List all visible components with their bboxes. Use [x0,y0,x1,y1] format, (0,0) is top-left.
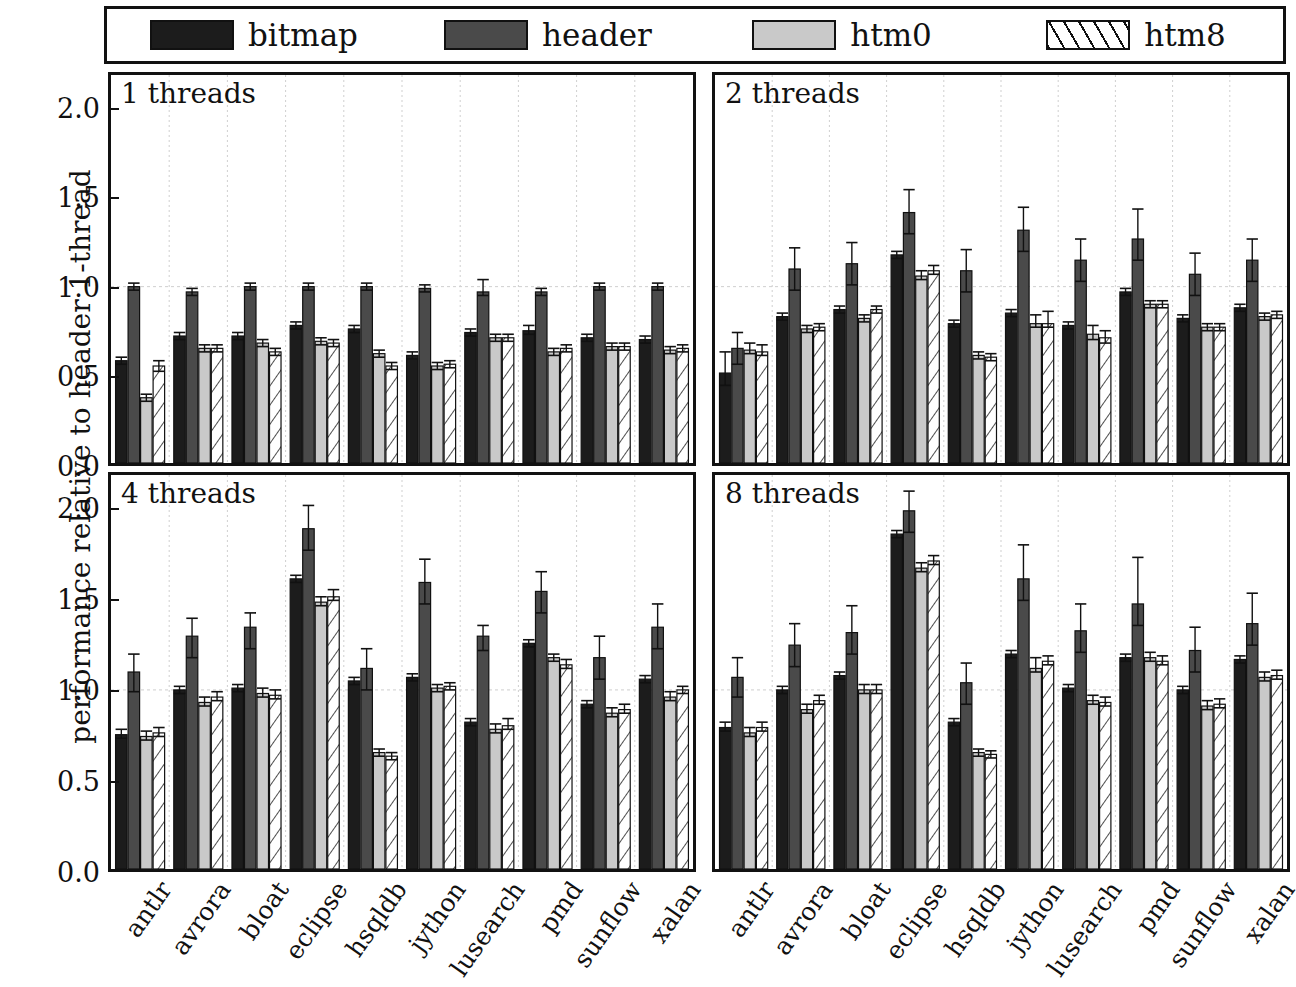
bar-htm8-eclipse [328,597,340,869]
figure-root: bitmap header htm0 htm8 performance rela… [0,0,1296,987]
bar-header-antlr [732,348,743,463]
bar-header-lusearch [1075,631,1086,869]
x-tick-label-avrora: avrora [165,876,236,961]
legend-label-htm8: htm8 [1144,20,1226,51]
bar-header-sunflow [1189,651,1200,869]
legend-label-header: header [542,20,652,51]
bar-header-sunflow [594,658,606,869]
legend-label-htm0: htm0 [850,20,932,51]
bar-bitmap-avrora [174,336,186,463]
bar-htm8-eclipse [928,271,939,463]
bar-header-sunflow [594,287,606,463]
bar-bitmap-jython [1006,654,1017,869]
bar-htm8-pmd [1157,661,1168,869]
bar-htm0-eclipse [916,568,927,869]
bar-htm8-avrora [814,701,825,869]
panel-title: 4 threads [121,479,256,510]
bar-htm8-bloat [270,352,282,463]
bar-bitmap-xalan [1234,659,1245,869]
bar-htm0-jython [432,688,444,869]
bar-htm0-lusearch [1087,701,1098,869]
y-tick-mark [108,599,119,601]
bar-bitmap-xalan [1234,308,1245,463]
bar-htm0-eclipse [315,341,327,463]
y-tick-mark [108,287,119,289]
x-axis-labels-right: antlravrorabloateclipsehsqldbjythonlusea… [712,874,1290,984]
y-tick-mark [108,376,119,378]
legend-item: htm8 [989,20,1283,51]
bar-htm8-pmd [1157,304,1168,463]
bar-htm0-avrora [801,329,812,463]
bar-header-jython [1018,579,1029,869]
bar-htm0-jython [432,366,444,463]
panel-title: 8 threads [725,479,860,510]
y-tick-label: 0.5 [38,361,100,392]
bar-htm8-jython [1042,324,1053,463]
x-tick-label-xalan: xalan [1238,876,1296,948]
bar-htm0-pmd [548,352,560,463]
bar-htm8-avrora [814,327,825,463]
bar-htm8-antlr [153,733,165,869]
bar-htm8-bloat [871,310,882,463]
panel-title: 1 threads [121,79,256,110]
y-tick-label: 1.0 [38,271,100,302]
bar-htm8-lusearch [1100,702,1111,869]
bar-header-xalan [1247,260,1258,463]
bar-bitmap-antlr [720,728,731,869]
bar-header-avrora [186,292,198,463]
bar-htm0-hsqldb [973,355,984,463]
y-axis-ticks-bottom: 0.00.51.01.52.0 [36,472,100,872]
x-tick-label-antlr: antlr [722,876,781,943]
bar-htm8-sunflow [619,347,631,463]
bar-bitmap-jython [407,677,419,869]
bar-bitmap-xalan [639,340,651,463]
bar-header-hsqldb [361,287,373,463]
bar-bitmap-jython [407,355,419,463]
bar-header-eclipse [303,529,315,869]
plot-area-1-threads [111,75,693,463]
bar-htm8-lusearch [1100,338,1111,463]
bar-bitmap-avrora [777,317,788,463]
bar-header-bloat [244,287,256,463]
bar-htm0-sunflow [1202,706,1213,869]
bar-bitmap-hsqldb [948,324,959,463]
bar-header-pmd [535,292,547,463]
panel-2-threads: 2 threads [712,72,1290,466]
legend-swatch-htm8 [1046,20,1130,50]
bar-bitmap-antlr [720,373,731,463]
bar-bitmap-eclipse [891,255,902,463]
bar-htm0-antlr [141,736,153,869]
bar-header-sunflow [1189,274,1200,463]
bar-header-hsqldb [961,683,972,869]
bar-htm0-lusearch [490,338,502,463]
bar-header-antlr [732,677,743,869]
bar-bitmap-avrora [174,690,186,869]
x-tick-label-pmd: pmd [533,876,589,938]
bar-htm8-xalan [1271,315,1282,463]
y-tick-mark [108,781,119,783]
bar-htm8-hsqldb [985,754,996,869]
bar-htm8-sunflow [1214,327,1225,463]
bar-htm8-hsqldb [386,756,398,869]
bar-htm8-bloat [270,695,282,869]
bar-htm8-pmd [561,348,573,463]
bar-bitmap-lusearch [465,332,477,463]
bar-header-avrora [789,645,800,869]
y-tick-label: 0.5 [38,766,100,797]
bar-header-avrora [789,269,800,463]
x-axis-labels-left: antlravrorabloateclipsehsqldbjythonlusea… [108,874,696,984]
bar-bitmap-lusearch [1063,325,1074,463]
bar-bitmap-pmd [1120,658,1131,869]
bar-bitmap-sunflow [581,704,593,869]
bar-htm8-jython [1042,661,1053,869]
bar-htm0-eclipse [916,276,927,463]
bar-htm0-sunflow [1202,327,1213,463]
bar-htm0-avrora [199,702,211,869]
y-tick-label: 2.0 [38,493,100,524]
bar-htm8-pmd [561,665,573,869]
bar-htm8-sunflow [1214,704,1225,869]
y-tick-label: 1.0 [38,675,100,706]
bar-htm8-sunflow [619,710,631,869]
bar-htm8-antlr [756,728,767,869]
bar-bitmap-bloat [232,336,244,463]
